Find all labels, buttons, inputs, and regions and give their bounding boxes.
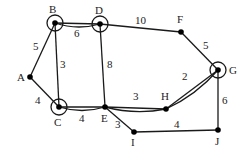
edge-B-D [55,23,100,24]
edge-weight-B-C: 3 [60,58,66,70]
edge-weight-D-E: 8 [107,58,113,70]
edge-I-J [134,130,218,132]
node-label-A: A [17,71,25,83]
edge-weight-A-B: 5 [33,40,39,52]
edge-D-E [100,24,105,107]
node-label-B: B [49,3,56,15]
node-H [163,106,169,112]
node-J [215,127,221,133]
node-B [52,20,58,26]
node-label-J: J [215,135,220,147]
edge-H-G [166,70,218,109]
edge-weight-E-H: 3 [133,90,139,102]
node-label-G: G [229,64,237,76]
weighted-graph-diagram: 54368105432346 ABCDEFGHIJ [0,0,248,154]
node-label-H: H [161,90,169,102]
node-label-D: D [95,4,103,16]
edge-weight-G-J: 6 [222,94,228,106]
edge-weight-H-G: 2 [182,70,188,82]
node-G [215,67,221,73]
node-F [178,29,184,35]
edge-B-C [55,23,59,107]
node-A [27,74,33,80]
node-D [97,21,103,27]
edge-weight-C-E: 4 [79,112,85,124]
edge-weight-B-D: 6 [74,27,80,39]
edge-weights-layer: 54368105432346 [33,14,228,130]
node-I [131,129,137,135]
node-label-I: I [131,136,135,148]
edge-weight-F-G: 5 [203,39,209,51]
node-C [56,104,62,110]
node-E [102,104,108,110]
edge-weight-I-J: 4 [174,118,180,130]
node-label-C: C [54,116,61,128]
edge-weight-A-C: 4 [35,94,41,106]
edge-weight-D-F: 10 [135,14,147,26]
edge-weight-E-I: 3 [115,118,121,130]
node-label-E: E [101,112,108,124]
node-label-F: F [177,13,183,25]
